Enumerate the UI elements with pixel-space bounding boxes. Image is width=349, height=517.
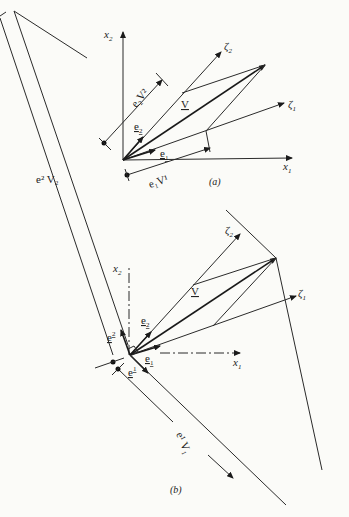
e1V1-dim-end-b xyxy=(208,455,233,478)
label-e2-b: e2 xyxy=(141,314,150,329)
label-x2-b: x2 xyxy=(112,262,122,277)
e2V2-tick-start-a xyxy=(99,138,111,150)
label-zeta2-a: ζ2 xyxy=(224,40,232,55)
label-e2V2-a: e₂V² xyxy=(128,86,150,110)
label-e2-a: e2 xyxy=(134,120,143,135)
label-e1-b: e1 xyxy=(145,352,154,367)
label-e1V1-b: e¹ V₁ xyxy=(174,430,194,456)
label-e-sup1-b: e1 xyxy=(128,365,137,378)
tip-perp-line-b xyxy=(226,210,276,258)
V-vector-b xyxy=(130,258,276,355)
caption-a: (a) xyxy=(209,176,221,188)
caption-b: (b) xyxy=(170,484,182,496)
vector-decomposition-diagram: x2 x1 ζ2 ζ1 V e2 e1 e₂V² e₁V¹ (a) xyxy=(0,0,349,517)
e1V1-band-inner-b xyxy=(130,355,286,505)
label-e-sup2-b: e2 xyxy=(107,330,116,343)
e2V2-band-outer-b xyxy=(0,18,113,355)
e2V2-top-tick2-b xyxy=(0,12,6,16)
label-zeta1-a: ζ1 xyxy=(288,98,296,113)
label-e2V2-b: e² V₂ xyxy=(36,173,59,185)
label-e1V1-a: e₁V¹ xyxy=(147,172,170,190)
e2V2-tick-b xyxy=(95,358,124,368)
zeta1-axis-a xyxy=(123,103,284,160)
label-zeta2-b: ζ2 xyxy=(225,224,233,239)
label-V-b: V xyxy=(191,285,199,297)
e2V2-band-inner-b xyxy=(14,11,128,345)
label-x1-b: x1 xyxy=(232,356,241,371)
x1-axis-a xyxy=(123,158,292,160)
label-x2-a: x2 xyxy=(103,28,113,43)
e2V2-dimension-a xyxy=(104,80,162,143)
label-x1-a: x1 xyxy=(282,160,291,175)
label-V-a: V xyxy=(181,98,189,110)
label-zeta1-b: ζ1 xyxy=(298,287,306,302)
e1V1-dimension-a xyxy=(127,148,210,175)
e2V2-top-tick-b xyxy=(14,11,87,58)
panel-b: x2 x1 ζ2 ζ1 V e2 e1 e2 e1 e² V₂ e¹ V₁ (b… xyxy=(0,11,322,505)
e1V1-dim-start-b xyxy=(118,369,173,422)
panel-a: x2 x1 ζ2 ζ1 V e2 e1 e₂V² e₁V¹ (a) xyxy=(99,28,296,190)
V-vector-a xyxy=(123,65,265,160)
